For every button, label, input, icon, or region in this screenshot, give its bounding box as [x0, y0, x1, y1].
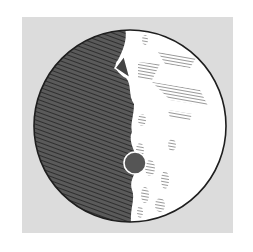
crater	[124, 152, 146, 174]
moon-disc	[30, 28, 230, 228]
moon-illustration	[0, 0, 253, 252]
